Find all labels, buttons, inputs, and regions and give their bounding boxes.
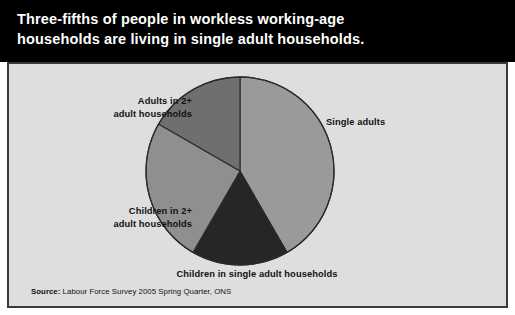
pie-label-children-2plus: Children in 2+ adult households — [69, 205, 192, 230]
pie-label-children-single-adult: Children in single adult households — [127, 268, 387, 281]
source-note: Source: Labour Force Survey 2005 Spring … — [31, 287, 231, 296]
title-banner: Three-fifths of people in workless worki… — [0, 0, 515, 62]
page-title: Three-fifths of people in workless worki… — [17, 9, 492, 49]
plot-area: Adults in 2+ adult households Single adu… — [9, 64, 506, 306]
pie-label-single-adults: Single adults — [326, 116, 456, 129]
source-label: Source: — [31, 287, 60, 296]
chart-figure: Three-fifths of people in workless worki… — [0, 0, 515, 315]
pie-label-adults-2plus: Adults in 2+ adult households — [72, 95, 192, 120]
chart-panel: Adults in 2+ adult households Single adu… — [7, 62, 508, 308]
source-value: Labour Force Survey 2005 Spring Quarter,… — [60, 287, 231, 296]
